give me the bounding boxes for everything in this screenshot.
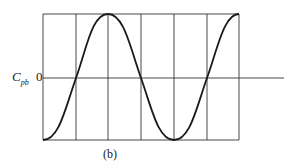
- y-tick-zero: 0: [36, 69, 43, 85]
- figure-caption: (b): [100, 147, 120, 162]
- plot-frame: [43, 14, 284, 140]
- y-axis-label: Cpb: [12, 69, 29, 87]
- waveform-plot: [0, 0, 299, 167]
